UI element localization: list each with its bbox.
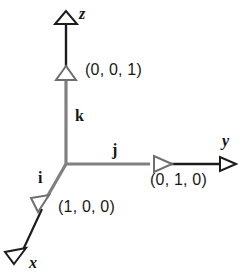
y-axis-arrowhead-icon [220, 157, 236, 171]
axes-drawing [0, 0, 246, 276]
x-axis-label: x [29, 255, 37, 271]
z-unit-arrowhead-icon [56, 66, 76, 80]
z-axis-arrowhead-icon [55, 11, 77, 24]
x-axis-outer-segment [22, 209, 42, 252]
k-unit-vector-label: k [75, 108, 84, 124]
x-axis-unit-segment [47, 164, 66, 197]
y-axis-label: y [222, 133, 229, 149]
coordinate-axes-figure: z (0, 0, 1) k j y (0, 1, 0) i (1, 0, 0) … [0, 0, 246, 276]
y-unit-coordinate-label: (0, 1, 0) [150, 172, 207, 188]
x-axis-arrowhead-icon [5, 248, 26, 264]
x-unit-arrowhead-icon [31, 195, 49, 212]
j-unit-vector-label: j [112, 142, 117, 158]
z-axis-label: z [79, 6, 85, 22]
z-unit-coordinate-label: (0, 0, 1) [85, 62, 142, 78]
i-unit-vector-label: i [38, 170, 42, 186]
y-unit-arrowhead-icon [154, 156, 172, 172]
x-unit-coordinate-label: (1, 0, 0) [58, 199, 115, 215]
